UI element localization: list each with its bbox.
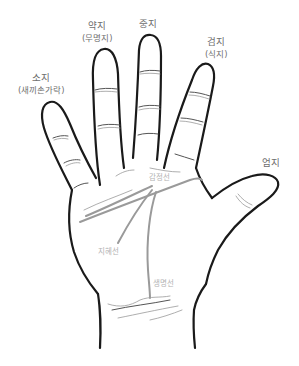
palm [69, 168, 206, 348]
index-finger [164, 64, 214, 168]
middle-finger [133, 35, 161, 160]
pinky-finger [42, 102, 96, 190]
heart-line-label: 감정선 [149, 171, 170, 182]
pinky-name: 소지 [32, 72, 50, 83]
ring-name: 약지 [88, 20, 106, 31]
pinky-alt-name: (새끼손가락) [18, 84, 65, 96]
hand-diagram: 소지 (새끼손가락) 약지 (무명지) 중지 검지 (식지) 엄지 감정선 지혜… [0, 0, 299, 366]
head-line-label: 지혜선 [98, 245, 119, 256]
index-name: 검지 [207, 36, 225, 47]
life-line-label: 생명선 [153, 277, 174, 288]
ring-alt-name: (무명지) [82, 32, 113, 44]
pinky-label: 소지 (새끼손가락) [18, 72, 65, 96]
heart-line [80, 179, 202, 223]
middle-label: 중지 [139, 18, 157, 30]
index-label: 검지 (식지) [205, 36, 228, 60]
thumb-label: 엄지 [262, 157, 280, 169]
thumb [196, 168, 278, 284]
head-line [118, 190, 152, 243]
hand-illustration [0, 0, 299, 366]
index-alt-name: (식지) [205, 48, 228, 60]
middle-name: 중지 [139, 18, 157, 29]
thumb-name: 엄지 [262, 157, 280, 168]
ring-label: 약지 (무명지) [82, 20, 113, 44]
head-line-upper [86, 186, 152, 216]
ring-finger [93, 49, 124, 185]
